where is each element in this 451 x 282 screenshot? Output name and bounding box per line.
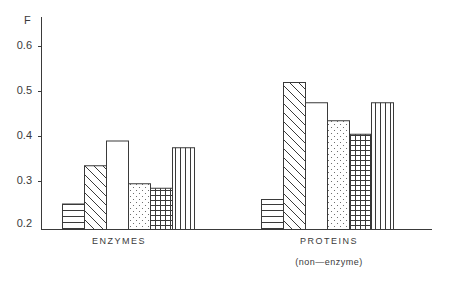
bar-proteins-dotted — [328, 121, 350, 230]
category-label-proteins: PROTEINS — [300, 236, 358, 246]
y-tick-label: 0.4 — [0, 129, 32, 141]
bars-group — [63, 83, 394, 230]
y-tick-label: 0.6 — [0, 39, 32, 51]
y-tick-label: 0.2 — [0, 217, 32, 229]
bar-proteins-grid-hatch — [350, 134, 372, 229]
bar-enzymes-horizontal-hatch — [63, 204, 85, 230]
bar-enzymes-blank — [107, 141, 129, 230]
bar-proteins-vertical-hatch — [372, 103, 394, 230]
bar-chart — [0, 0, 451, 282]
bar-enzymes-diagonal-hatch — [85, 166, 107, 230]
bar-proteins-blank — [306, 103, 328, 230]
bar-proteins-diagonal-hatch — [284, 83, 306, 230]
y-tick-label: 0.3 — [0, 174, 32, 186]
y-tick-label: 0.5 — [0, 84, 32, 96]
bar-enzymes-dotted — [129, 184, 151, 230]
y-axis-title: F — [24, 14, 31, 26]
bar-enzymes-grid-hatch — [151, 188, 173, 229]
bar-proteins-horizontal-hatch — [262, 200, 284, 230]
bar-enzymes-vertical-hatch — [173, 148, 195, 230]
category-label-enzymes: ENZYMES — [92, 236, 146, 246]
category-sublabel-proteins: (non—enzyme) — [295, 257, 363, 267]
